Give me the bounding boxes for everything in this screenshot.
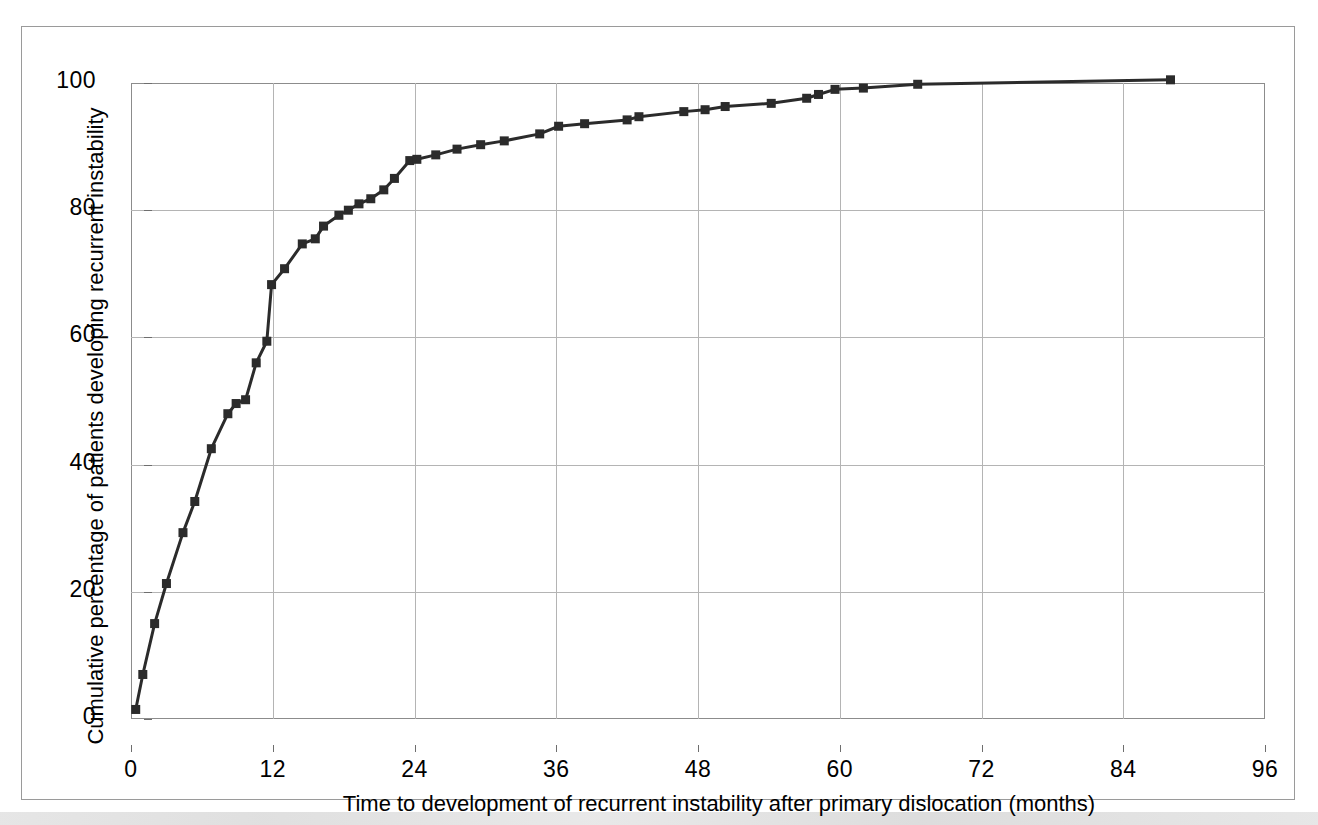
x-tick-mark — [415, 745, 416, 752]
data-point-marker — [721, 102, 730, 111]
data-point-marker — [267, 280, 276, 289]
x-tick-label: 12 — [233, 756, 313, 783]
data-point-marker — [802, 94, 811, 103]
data-point-marker — [634, 112, 643, 121]
y-tick-label: 100 — [6, 67, 96, 94]
y-tick-mark — [144, 83, 152, 84]
data-point-marker — [366, 194, 375, 203]
data-point-marker — [207, 444, 216, 453]
data-point-marker — [319, 222, 328, 231]
y-tick-mark — [144, 592, 152, 593]
data-point-marker — [262, 337, 271, 346]
data-point-marker — [412, 155, 421, 164]
x-tick-mark — [1265, 745, 1266, 752]
data-point-marker — [767, 99, 776, 108]
data-point-marker — [701, 105, 710, 114]
data-point-marker — [178, 528, 187, 537]
data-point-marker — [252, 358, 261, 367]
x-tick-mark — [840, 745, 841, 752]
data-point-marker — [859, 84, 868, 93]
data-point-marker — [623, 115, 632, 124]
chart-plot-area — [131, 83, 1265, 719]
data-point-marker — [354, 199, 363, 208]
data-point-marker — [379, 185, 388, 194]
data-point-marker — [131, 705, 140, 714]
data-point-marker — [814, 90, 823, 99]
y-tick-mark — [144, 719, 152, 720]
data-point-marker — [334, 211, 343, 220]
data-point-marker — [150, 619, 159, 628]
data-point-marker — [311, 234, 320, 243]
data-point-marker — [280, 264, 289, 273]
data-point-marker — [535, 129, 544, 138]
x-tick-label: 24 — [375, 756, 455, 783]
x-tick-label: 0 — [91, 756, 171, 783]
data-point-marker — [913, 80, 922, 89]
figure-frame: 01224364860728496 020406080100 Time to d… — [21, 26, 1295, 800]
x-tick-label: 48 — [658, 756, 738, 783]
x-tick-label: 36 — [516, 756, 596, 783]
data-point-marker — [138, 670, 147, 679]
data-point-marker — [344, 206, 353, 215]
x-tick-mark — [1123, 745, 1124, 752]
data-point-marker — [679, 107, 688, 116]
data-point-marker — [390, 174, 399, 183]
data-point-marker — [453, 145, 462, 154]
data-point-marker — [554, 122, 563, 131]
x-tick-label: 60 — [800, 756, 880, 783]
data-point-marker — [580, 119, 589, 128]
data-point-marker — [1166, 75, 1175, 84]
x-tick-mark — [273, 745, 274, 752]
y-tick-mark — [144, 210, 152, 211]
data-point-marker — [241, 395, 250, 404]
data-point-marker — [831, 85, 840, 94]
x-tick-mark — [556, 745, 557, 752]
data-point-marker — [232, 399, 241, 408]
x-axis-title: Time to development of recurrent instabi… — [152, 791, 1286, 817]
x-tick-mark — [131, 745, 132, 752]
x-tick-mark — [698, 745, 699, 752]
series-line — [136, 80, 1171, 710]
x-tick-mark — [982, 745, 983, 752]
x-tick-label: 96 — [1225, 756, 1305, 783]
data-series-line — [131, 83, 1265, 719]
data-point-marker — [500, 136, 509, 145]
data-point-marker — [190, 497, 199, 506]
data-point-marker — [298, 239, 307, 248]
data-point-marker — [162, 579, 171, 588]
x-tick-label: 72 — [942, 756, 1022, 783]
y-axis-title: Cumulative percentage of patients develo… — [83, 106, 109, 746]
data-point-marker — [223, 409, 232, 418]
y-tick-mark — [144, 337, 152, 338]
data-point-marker — [431, 150, 440, 159]
y-tick-mark — [144, 465, 152, 466]
data-point-marker — [476, 140, 485, 149]
x-tick-label: 84 — [1083, 756, 1163, 783]
